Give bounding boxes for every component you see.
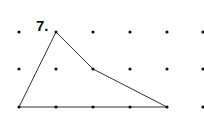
grid-dot bbox=[165, 30, 168, 33]
grid-dot bbox=[54, 105, 57, 108]
grid-dot bbox=[201, 30, 204, 33]
grid-dot bbox=[201, 105, 204, 108]
grid-dot bbox=[54, 30, 57, 33]
dot-grid-figure bbox=[0, 0, 204, 125]
grid-dot bbox=[91, 67, 94, 70]
grid-dot bbox=[165, 67, 168, 70]
grid-dot bbox=[165, 105, 168, 108]
grid-dot bbox=[91, 105, 94, 108]
grid-dot bbox=[128, 30, 131, 33]
grid-dot bbox=[128, 105, 131, 108]
grid-dot bbox=[201, 67, 204, 70]
grid-dot bbox=[17, 67, 20, 70]
grid-dot bbox=[17, 105, 20, 108]
grid-dot bbox=[17, 30, 20, 33]
grid-dot bbox=[128, 67, 131, 70]
grid-dot bbox=[54, 67, 57, 70]
grid-dot bbox=[91, 30, 94, 33]
